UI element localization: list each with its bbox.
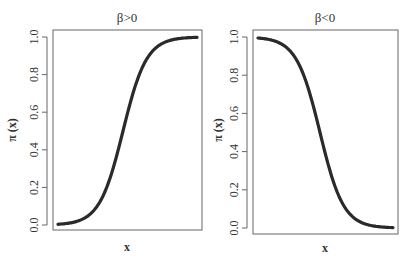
plot-frame xyxy=(53,30,202,230)
y-tick-label: 0.6 xyxy=(227,106,241,121)
y-axis-ticks: 0.00.20.40.60.81.0 xyxy=(227,30,247,236)
plot-frame xyxy=(253,30,398,234)
y-tick-label: 0.2 xyxy=(227,182,241,197)
y-tick-label: 0.0 xyxy=(27,218,41,233)
x-axis-label: x xyxy=(322,241,328,255)
y-tick-label: 0.0 xyxy=(227,221,241,236)
y-axis-label: π (x) xyxy=(5,118,19,142)
panel-beta-negative: β<0 x π (x) 0.00.20.40.60.81.0 xyxy=(211,10,398,255)
y-axis-ticks: 0.00.20.40.60.81.0 xyxy=(27,30,47,233)
y-tick-label: 1.0 xyxy=(27,30,41,45)
data-curve xyxy=(58,37,197,224)
y-tick-label: 0.4 xyxy=(227,144,241,159)
y-tick-label: 0.2 xyxy=(27,180,41,195)
panel-beta-positive: β>0 x π (x) 0.00.20.40.60.81.0 xyxy=(5,10,202,254)
y-axis-label: π (x) xyxy=(211,118,225,142)
data-curve xyxy=(258,38,393,228)
x-axis-label: x xyxy=(124,240,130,254)
figure: β>0 x π (x) 0.00.20.40.60.81.0 β<0 x π (… xyxy=(0,0,415,267)
y-tick-label: 0.8 xyxy=(27,67,41,82)
y-tick-label: 1.0 xyxy=(227,30,241,45)
y-tick-label: 0.4 xyxy=(27,142,41,157)
y-tick-label: 0.6 xyxy=(27,105,41,120)
y-tick-label: 0.8 xyxy=(227,68,241,83)
panel-title: β<0 xyxy=(315,10,335,25)
panel-title: β>0 xyxy=(117,10,137,25)
